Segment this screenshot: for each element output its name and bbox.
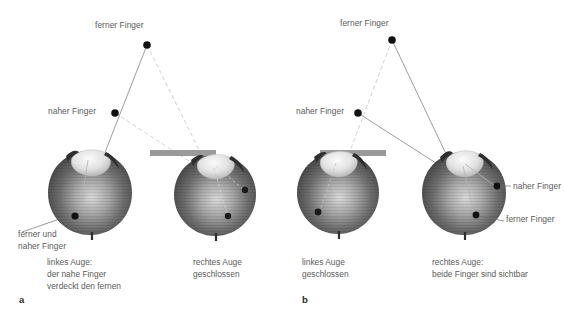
- panel-b-near-finger-label: naher Finger: [296, 106, 344, 118]
- panel-a-far-finger-point: [143, 41, 151, 49]
- panel-a-near-finger-label: naher Finger: [48, 106, 96, 118]
- figure-canvas: ferner Finger naher Finger ferner und na…: [0, 0, 564, 315]
- panel-a-retina-note-label: ferner und naher Finger: [18, 229, 66, 252]
- retinal-point-both-fingers: [71, 212, 78, 219]
- panel-a-far-finger-label: ferner Finger: [95, 20, 144, 32]
- panel-a-right-eye-caption: rechtes Auge geschlossen: [193, 256, 242, 280]
- panel-b-letter: b: [302, 294, 308, 305]
- retinal-point-near-finger: [494, 183, 501, 190]
- panel-b-left-eye: [297, 152, 379, 239]
- retinal-point-far-finger: [242, 187, 248, 193]
- panel-b-retina-far-finger-label: ferner Finger: [506, 214, 555, 226]
- retinal-point-near-finger: [225, 213, 231, 219]
- panel-b-far-finger-point: [388, 36, 396, 44]
- panel-a-letter: a: [19, 294, 24, 305]
- panel-b-left-eye-caption: linkes Auge geschlossen: [302, 256, 349, 280]
- panel-a-left-eye-caption: linkes Auge: der nahe Finger verdeckt de…: [47, 256, 121, 293]
- panel-b-far-finger-label: ferner Finger: [340, 18, 389, 30]
- panel-a-near-finger-point: [111, 109, 119, 117]
- panel-a-right-eye: [174, 154, 256, 241]
- retinal-point-both-fingers: [315, 209, 322, 216]
- panel-b-retina-near-finger-label: naher Finger: [513, 181, 561, 193]
- retinal-point-far-finger: [473, 212, 480, 219]
- panel-b-near-finger-point: [354, 109, 362, 117]
- panel-a-left-eye: [48, 150, 132, 240]
- cornea: [71, 150, 110, 176]
- panel-b-right-eye: [422, 151, 506, 240]
- panel-b-right-eye-caption: rechtes Auge: beide Finger sind sichtbar: [432, 256, 528, 280]
